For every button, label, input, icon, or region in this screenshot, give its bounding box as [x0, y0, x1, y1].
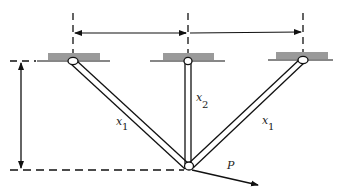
members: [71, 60, 305, 169]
center-bar-subscript: 2: [202, 99, 208, 110]
right-pin-icon: [298, 56, 308, 63]
reference-lines: [73, 13, 303, 55]
center-bar: [185, 63, 191, 164]
three-bar-truss-diagram: x 1 x 2 x 1 P: [0, 0, 349, 195]
labels: x 1 x 2 x 1 P: [116, 91, 274, 172]
load-node-pin-icon: [185, 162, 194, 170]
horizontal-dimensions: [75, 32, 301, 33]
left-bar: [71, 61, 189, 169]
center-pin-icon: [184, 57, 192, 64]
pin-joints: [68, 56, 308, 170]
right-span-dimension-arrow: [190, 32, 301, 33]
right-bar-subscript: 1: [268, 121, 274, 132]
right-bar: [188, 60, 305, 168]
left-pin-icon: [68, 57, 78, 64]
load-p-arrow: [192, 170, 258, 185]
vertical-dimension: [10, 61, 184, 170]
load-p-label: P: [226, 159, 235, 172]
left-bar-subscript: 1: [122, 121, 128, 132]
